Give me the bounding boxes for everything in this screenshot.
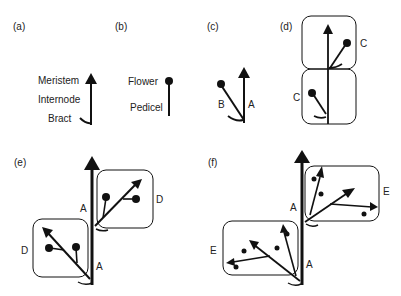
- panel-d-label: (d): [280, 21, 292, 32]
- meristem-label: Meristem: [38, 75, 79, 86]
- axis-a-lower-label-e: A: [96, 261, 103, 272]
- unit-d-right-label: D: [156, 194, 163, 205]
- panel-b-label: (b): [115, 21, 127, 32]
- unit-c-upper-label: C: [360, 38, 367, 49]
- panel-a-label: (a): [13, 21, 25, 32]
- diagram: (a) Meristem Internode Bract (b) Flower …: [0, 0, 401, 296]
- panel-e-figure: [33, 156, 153, 285]
- pedicel-label: Pedicel: [130, 102, 163, 113]
- unit-e-left-label: E: [210, 245, 217, 256]
- panel-a-figure: [80, 73, 97, 125]
- axis-a-upper-label-e: A: [80, 203, 87, 214]
- panel-e-label: (e): [14, 157, 26, 168]
- panel-c-label: (c): [207, 21, 219, 32]
- flower-label: Flower: [128, 76, 159, 87]
- axis-a-lower-label-f: A: [306, 259, 313, 270]
- panel-c-figure: [217, 67, 250, 123]
- inflorescence-diagram: (a) Meristem Internode Bract (b) Flower …: [0, 0, 401, 296]
- unit-c-lower-label: C: [293, 92, 300, 103]
- unit-d-left-label: D: [21, 245, 28, 256]
- unit-e-right-label: E: [383, 186, 390, 197]
- panel-d-figure: [302, 16, 356, 124]
- internode-label: Internode: [38, 94, 81, 105]
- axis-a-upper-label-f: A: [290, 202, 297, 213]
- bract-label: Bract: [48, 113, 72, 124]
- branch-b-label: B: [218, 99, 225, 110]
- panel-f-label: (f): [208, 157, 217, 168]
- branch-a-label: A: [248, 99, 255, 110]
- panel-b-figure: [165, 77, 173, 116]
- panel-f-figure: [223, 150, 379, 285]
